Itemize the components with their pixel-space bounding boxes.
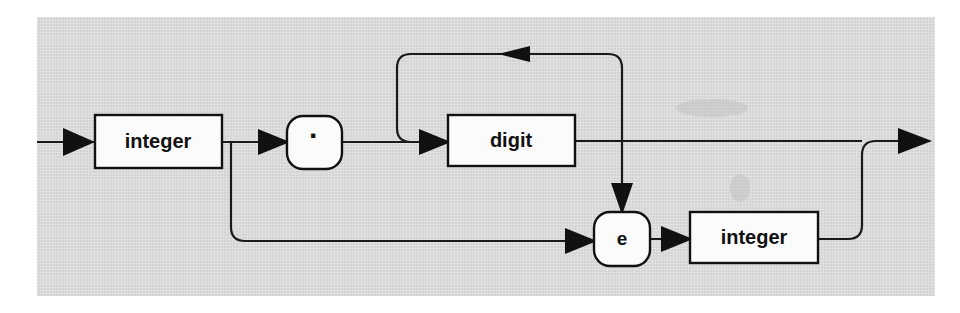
terminal-period[interactable]: · xyxy=(287,116,342,169)
arrowhead-into-e-top xyxy=(611,183,633,215)
scan-smudge xyxy=(730,174,750,202)
arrowhead-into-digit xyxy=(419,129,451,155)
integer-left-label: integer xyxy=(125,130,192,152)
arrowhead-into-integer-right xyxy=(661,226,693,252)
screenshot-canvas: integer · digit e integer xyxy=(0,0,960,313)
digit-label: digit xyxy=(490,129,533,151)
nonterminal-integer-right[interactable]: integer xyxy=(690,212,818,263)
period-label: · xyxy=(309,119,319,152)
terminal-e[interactable]: e xyxy=(594,212,650,266)
e-label: e xyxy=(617,228,628,249)
integer-right-label: integer xyxy=(721,226,788,248)
arrowhead-exit xyxy=(898,128,932,154)
nonterminal-integer-left[interactable]: integer xyxy=(95,115,222,168)
arrowhead-into-e-left xyxy=(565,228,597,254)
syntax-diagram: integer · digit e integer xyxy=(0,0,960,313)
arrowhead-into-period xyxy=(258,129,290,155)
scan-smudge xyxy=(676,99,748,117)
exponent-rejoin-rail xyxy=(818,141,930,239)
arrowhead-loop-back xyxy=(498,46,530,62)
arrowhead-entry xyxy=(63,128,95,156)
nonterminal-digit[interactable]: digit xyxy=(448,115,575,166)
